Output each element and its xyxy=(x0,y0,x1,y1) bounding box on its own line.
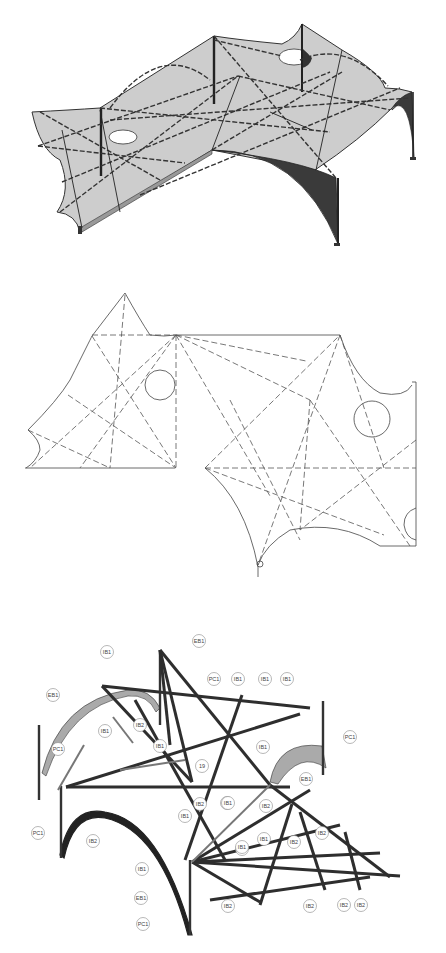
edge-beam-arch-main xyxy=(60,811,192,935)
edge-beam-arch-right xyxy=(270,745,326,784)
callout-ib2: IB2 xyxy=(288,836,301,849)
base-plate xyxy=(410,157,416,160)
svg-text:IB2: IB2 xyxy=(196,801,204,807)
callout-ib2: IB2 xyxy=(222,900,235,913)
svg-text:IB2: IB2 xyxy=(306,903,314,909)
frame-drawing: EB1IB1PC1IB1IB1IB1EB1IB1IB2IB1IB1PC1PC11… xyxy=(0,620,446,953)
callout-eb1: EB1 xyxy=(135,892,148,905)
svg-text:IB1: IB1 xyxy=(181,813,189,819)
callout-eb1: EB1 xyxy=(193,635,206,648)
svg-text:IB2: IB2 xyxy=(340,902,348,908)
plan-view xyxy=(0,280,446,580)
svg-text:PC1: PC1 xyxy=(138,921,149,927)
svg-text:EB1: EB1 xyxy=(194,638,204,644)
callout-ib1: IB1 xyxy=(179,810,192,823)
svg-text:IB2: IB2 xyxy=(136,722,144,728)
svg-text:EB1: EB1 xyxy=(48,692,58,698)
svg-text:IB2: IB2 xyxy=(89,838,97,844)
svg-text:IB1: IB1 xyxy=(234,676,242,682)
callout-ib2: IB2 xyxy=(316,827,329,840)
callout-pc1: PC1 xyxy=(344,731,357,744)
callout-ib2: IB2 xyxy=(87,835,100,848)
svg-text:EB1: EB1 xyxy=(136,895,146,901)
svg-text:IB2: IB2 xyxy=(318,830,326,836)
svg-text:IB1: IB1 xyxy=(224,800,232,806)
svg-text:19: 19 xyxy=(199,763,205,769)
callout-ib1: IB1 xyxy=(257,741,270,754)
svg-text:IB1: IB1 xyxy=(260,836,268,842)
svg-text:IB1: IB1 xyxy=(283,676,291,682)
callout-pc1: PC1 xyxy=(32,827,45,840)
svg-text:IB2: IB2 xyxy=(262,803,270,809)
callout-ib1: IB1 xyxy=(99,725,112,738)
svg-text:IB2: IB2 xyxy=(224,903,232,909)
membrane-opening-left xyxy=(109,130,137,144)
callout-ib2: IB2 xyxy=(194,798,207,811)
plan-drawing xyxy=(0,280,446,580)
frame-members xyxy=(66,650,400,905)
svg-text:IB1: IB1 xyxy=(259,744,267,750)
svg-text:IB1: IB1 xyxy=(261,676,269,682)
callout-ib2: IB2 xyxy=(304,900,317,913)
svg-text:EB1: EB1 xyxy=(301,776,311,782)
callout-ib1: IB1 xyxy=(258,833,271,846)
structural-frame-view: EB1IB1PC1IB1IB1IB1EB1IB1IB2IB1IB1PC1PC11… xyxy=(0,620,446,953)
callout-ib1: IB1 xyxy=(232,673,245,686)
callout-ib2: IB2 xyxy=(355,899,368,912)
callout-ib1: IB1 xyxy=(222,797,235,810)
membrane-surface xyxy=(32,24,412,232)
callout-ib2: IB2 xyxy=(134,719,147,732)
callout-ib1: IB1 xyxy=(236,841,249,854)
svg-text:IB1: IB1 xyxy=(101,728,109,734)
svg-text:PC1: PC1 xyxy=(33,830,44,836)
svg-text:PC1: PC1 xyxy=(345,734,356,740)
svg-text:IB1: IB1 xyxy=(138,866,146,872)
callout-pc1: PC1 xyxy=(208,673,221,686)
callout-eb1: EB1 xyxy=(300,773,313,786)
plan-outline xyxy=(25,293,416,577)
callout-eb1: EB1 xyxy=(47,689,60,702)
callout-ib1: IB1 xyxy=(281,673,294,686)
callout-ib1: IB1 xyxy=(101,646,114,659)
isometric-membrane-view xyxy=(0,0,446,260)
base-plate xyxy=(334,243,340,246)
callout-ib1: IB1 xyxy=(259,673,272,686)
callout-19: 19 xyxy=(196,760,209,773)
base-plate xyxy=(78,226,82,234)
svg-text:IB2: IB2 xyxy=(290,839,298,845)
svg-text:IB1: IB1 xyxy=(103,649,111,655)
svg-text:PC1: PC1 xyxy=(209,676,220,682)
callout-ib1: IB1 xyxy=(136,863,149,876)
svg-text:PC1: PC1 xyxy=(53,746,64,752)
svg-text:IB1: IB1 xyxy=(238,844,246,850)
callout-ib1: IB1 xyxy=(154,740,167,753)
membrane-drawing xyxy=(0,0,446,260)
callout-ib2: IB2 xyxy=(260,800,273,813)
svg-text:IB2: IB2 xyxy=(357,902,365,908)
callout-ib2: IB2 xyxy=(338,899,351,912)
svg-text:IB1: IB1 xyxy=(156,743,164,749)
callout-pc1: PC1 xyxy=(137,918,150,931)
callout-pc1: PC1 xyxy=(52,743,65,756)
